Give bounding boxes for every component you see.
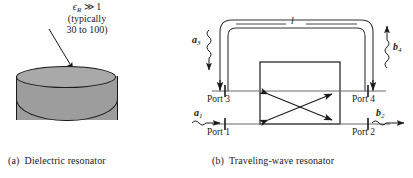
- panel-b-traveling-wave-resonator: l Port 3 Port 4 Port 1 Port 2 a1 b2 a3 b…: [190, 0, 413, 178]
- port4-label: Port 4: [352, 95, 375, 105]
- a3-subscript: 3: [197, 39, 201, 47]
- caption-panel-b: (b) Traveling-wave resonator: [212, 156, 334, 167]
- a3-label: a3: [192, 35, 201, 47]
- a1-wave-squiggle: [192, 121, 206, 125]
- b4-subscript: 4: [398, 46, 402, 54]
- much-greater-than-icon: ≫: [84, 1, 94, 12]
- caption-a-letter: (a): [8, 155, 19, 166]
- a1-label: a1: [194, 108, 203, 120]
- dielectric-resonator-cylinder: [14, 64, 118, 132]
- epsilon-value: 1: [96, 1, 101, 12]
- b2-label: b2: [376, 108, 385, 120]
- directional-coupler-box: [260, 62, 340, 124]
- loop-outer-trace: [220, 20, 373, 91]
- caption-a-text: Dielectric resonator: [25, 155, 106, 166]
- b2-subscript: 2: [381, 112, 385, 120]
- caption-b-text: Traveling-wave resonator: [229, 155, 334, 166]
- panel-a-dielectric-resonator: ϵR ≫ 1 (typically 30 to 100) (a) Dielect…: [0, 0, 200, 178]
- caption-panel-a: (a) Dielectric resonator: [8, 156, 106, 167]
- b4-wave-squiggle: [385, 40, 389, 68]
- a1-subscript: 1: [199, 112, 203, 120]
- port1-label: Port 1: [207, 128, 230, 138]
- port3-label: Port 3: [207, 95, 230, 105]
- port2-label: Port 2: [352, 128, 375, 138]
- figure-root: ϵR ≫ 1 (typically 30 to 100) (a) Dielect…: [0, 0, 413, 178]
- a3-wave-squiggle: [207, 30, 211, 58]
- loop-length-label: l: [291, 16, 294, 27]
- caption-b-letter: (b): [212, 155, 224, 166]
- cylinder-top-face: [16, 66, 116, 88]
- loop-inner-trace: [228, 28, 365, 91]
- b4-label: b4: [393, 42, 402, 54]
